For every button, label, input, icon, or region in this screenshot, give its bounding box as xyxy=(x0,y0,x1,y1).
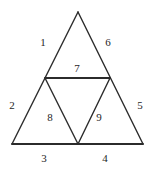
region-label-1: 1 xyxy=(40,37,46,48)
inner-right-edge xyxy=(78,78,110,144)
region-label-3: 3 xyxy=(41,153,47,164)
region-label-2: 2 xyxy=(9,100,15,111)
region-label-7: 7 xyxy=(74,63,80,74)
region-label-4: 4 xyxy=(102,153,108,164)
region-label-6: 6 xyxy=(105,37,111,48)
region-label-8: 8 xyxy=(47,112,53,123)
triangle-figure-svg xyxy=(0,0,152,171)
region-label-5: 5 xyxy=(137,100,143,111)
triangle-diagram: 1 2 3 4 5 6 7 8 9 xyxy=(0,0,152,171)
region-label-9: 9 xyxy=(96,112,102,123)
